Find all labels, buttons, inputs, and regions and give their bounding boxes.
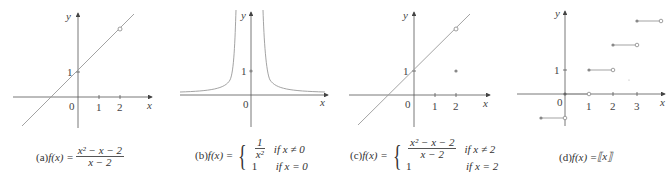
panel-b: y x 0 1 (b) f(x) = { 1x² if x ≠ 0 1 if x… [170,0,335,184]
origin-label: 0 [557,96,563,108]
closed-point [587,68,590,71]
tick-label-y: 1 [403,65,409,77]
axis-label-x: x [319,96,325,108]
tick-label-x: 2 [610,100,616,112]
tick-label-x: 1 [96,101,102,113]
caption-label: (d) [559,151,572,163]
tick-label-y: 1 [554,64,560,76]
caption-b: (b) f(x) = { 1x² if x ≠ 0 1 if x = 0 [195,137,308,172]
closed-point [539,116,542,119]
tick-label-x: 2 [453,100,459,112]
axis-label-y: y [554,7,560,19]
graph-d: y x 0 1 2 3 1 [505,0,671,130]
axis-label-x: x [146,99,152,111]
open-point [118,27,122,31]
caption-d: (d) f(x) = ⟦x⟧ [559,150,612,163]
stray-dot [628,79,629,80]
brace: { [238,140,247,170]
axis-label-y: y [402,9,408,21]
tick-label-x: 2 [117,101,123,113]
open-point [563,116,567,120]
caption-a: (a) f(x) = x² − x − 2 x − 2 [36,145,126,168]
panel-c: y x 0 1 2 1 (c) f(x) = { x² − x − 2x − 2… [335,0,510,184]
axis-label-x: x [659,96,665,108]
caption-label: (c) [350,149,362,161]
caption-label: (b) [195,149,208,161]
closed-point [249,69,252,72]
open-point [659,19,663,23]
closed-point [635,19,638,22]
tick-label-x: 3 [634,100,640,112]
axis-label-x: x [482,97,488,109]
tick-label-y: 1 [241,65,247,77]
brace: { [393,140,402,170]
closed-point [563,92,566,95]
curve-left [180,10,236,92]
caption-expr: ⟦x⟧ [597,150,612,163]
graph-a: y x 0 1 2 1 [0,0,170,130]
open-point [611,68,615,72]
caption-fx: f(x) = [48,151,73,163]
panel-d: y x 0 1 2 3 1 (d) f(x) = ⟦x⟧ [505,0,671,184]
caption-fx: f(x) = [208,149,233,161]
tick-label-y: 1 [67,66,73,78]
caption-fx: f(x) = [362,149,387,161]
panel-a: y x 0 1 2 1 (a) f(x) = x² − x − 2 x − 2 [0,0,170,184]
closed-point [454,69,457,72]
open-point [587,92,591,96]
tick-label-x: 1 [586,100,592,112]
origin-label: 0 [243,98,249,110]
cases: x² − x − 2x − 2 if x ≠ 2 1 if x = 2 [406,137,498,172]
caption-fx: f(x) = [572,151,597,163]
caption-c: (c) f(x) = { x² − x − 2x − 2 if x ≠ 2 1 … [350,137,498,172]
graph-b: y x 0 1 [170,0,335,130]
axis-label-y: y [65,10,71,22]
axis-label-y: y [240,9,246,21]
open-point [454,27,458,31]
caption-label: (a) [36,151,48,163]
closed-point [611,43,614,46]
open-point [635,43,639,47]
graph-c: y x 0 1 2 1 [335,0,510,130]
tick-label-x: 1 [432,100,438,112]
curve-right [263,10,325,92]
origin-label: 0 [69,100,75,112]
cases: 1x² if x ≠ 0 1 if x = 0 [252,137,308,172]
fraction: x² − x − 2 x − 2 [76,145,124,168]
origin-label: 0 [405,98,411,110]
